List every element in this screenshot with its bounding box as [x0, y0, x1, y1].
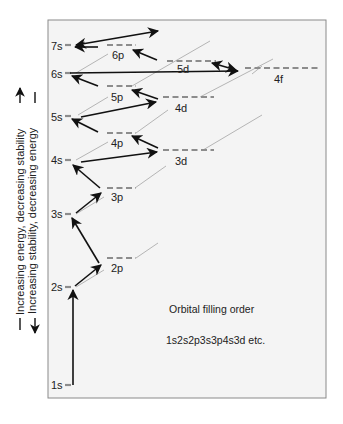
label-1s: 1s	[51, 379, 63, 391]
label-2s: 2s	[51, 281, 63, 293]
side-label-up: Increasing energy, decreasing stability	[14, 128, 26, 315]
label-5s: 5s	[51, 111, 63, 123]
orbital-filling-diagram: 1s 2s 2p 3s 3p 4s 3d 4p 5s 4d 5p 6s 4f 5…	[0, 0, 343, 424]
diagram-title: Orbital filling order	[169, 303, 255, 315]
label-7s: 7s	[51, 40, 63, 52]
label-5p: 5p	[111, 91, 123, 103]
label-3p: 3p	[111, 191, 123, 203]
label-3d: 3d	[175, 155, 187, 167]
label-4p: 4p	[111, 137, 123, 149]
label-2p: 2p	[111, 262, 123, 274]
label-6p: 6p	[112, 49, 124, 61]
side-label-down: Increasing stability, decreasing energy	[26, 127, 38, 314]
label-5d: 5d	[177, 63, 189, 75]
side-axis: Increasing energy, decreasing stability …	[14, 88, 38, 333]
label-4s: 4s	[51, 154, 63, 166]
filling-sequence: 1s2s2p3s3p4s3d etc.	[166, 334, 265, 346]
label-4d: 4d	[175, 102, 187, 114]
label-6s: 6s	[51, 68, 63, 80]
label-4f: 4f	[274, 73, 284, 85]
label-3s: 3s	[51, 208, 63, 220]
